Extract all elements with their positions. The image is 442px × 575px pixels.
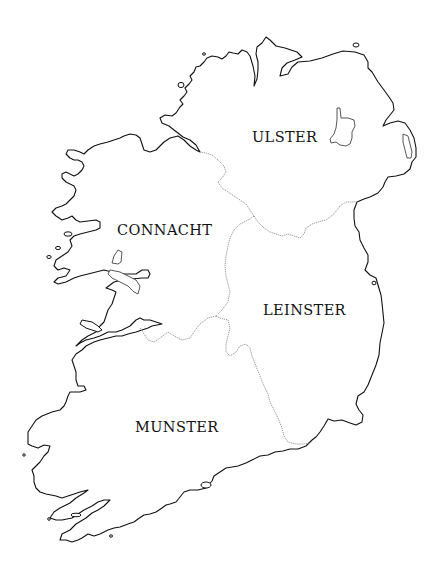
island-clare bbox=[56, 246, 61, 249]
island-valentia bbox=[71, 513, 81, 517]
island-north-rathlin bbox=[353, 43, 359, 47]
island-blasket bbox=[23, 454, 25, 456]
province-label-munster: MUNSTER bbox=[135, 419, 219, 435]
island-arranmore bbox=[178, 82, 184, 87]
island-inishbofin bbox=[47, 256, 51, 259]
island-dursey bbox=[48, 518, 51, 521]
ireland-coastline bbox=[28, 37, 416, 542]
map-canvas: ULSTER CONNACHT LEINSTER MUNSTER bbox=[0, 0, 442, 575]
island-aran bbox=[80, 320, 102, 332]
island-tory bbox=[203, 53, 206, 55]
island-cape-clear bbox=[110, 535, 113, 537]
island-cork-harbour bbox=[201, 482, 211, 488]
province-label-ulster: ULSTER bbox=[252, 129, 318, 145]
island-achill-a bbox=[64, 232, 72, 236]
ireland-provinces-map: ULSTER CONNACHT LEINSTER MUNSTER bbox=[0, 0, 442, 575]
province-label-connacht: CONNACHT bbox=[117, 222, 212, 238]
island-lambay bbox=[372, 281, 376, 285]
province-label-leinster: LEINSTER bbox=[263, 302, 347, 318]
